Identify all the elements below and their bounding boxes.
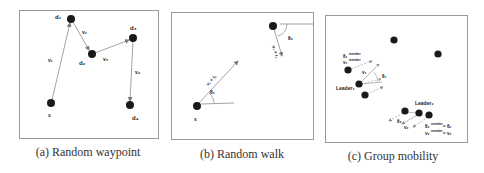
node-member-2a (401, 107, 408, 114)
label-theta1: θ₁ (382, 74, 386, 79)
group-mobility-diagram: θ₁ member v₁ member v₁ θ₁ Leader₁ Leader… (0, 0, 484, 145)
node-member-1b (361, 91, 368, 98)
leader1-reference-line (361, 82, 382, 84)
label-theta2-member-eq: = θ₂ (443, 124, 451, 129)
label-theta2-member: θ₂ (425, 124, 429, 129)
label-v1-member: v₁ (343, 60, 348, 65)
label-theta2: θ₂ (397, 119, 401, 124)
label-v2-member-eq: = v₂ (443, 131, 451, 136)
label-v1: v₁ (362, 70, 367, 75)
label-v2: v₂ (404, 125, 409, 130)
leader2-vector (402, 115, 417, 124)
node-member-2b (425, 111, 432, 118)
node-leader2 (415, 109, 422, 116)
panel-group-mobility: θ₁ member v₁ member v₁ θ₁ Leader₁ Leader… (0, 0, 484, 173)
member2-vector (367, 87, 383, 94)
node-leader1 (355, 80, 362, 87)
label-v2-member-sup: member (431, 129, 444, 133)
label-leader1: Leader₁ (336, 85, 354, 91)
label-theta1-member: θ₁ (343, 54, 347, 59)
label-leader2: Leader₂ (415, 100, 434, 106)
label-theta2-member-sup: member (431, 122, 444, 126)
node-free-2 (434, 50, 441, 57)
node-free-1 (390, 36, 397, 43)
member1-vector (351, 61, 372, 69)
label-v2-member: v₂ (425, 131, 430, 136)
label-theta1-member-sup: member (349, 52, 362, 56)
node-member-1a (344, 66, 351, 73)
caption-group-mobility: (c) Group mobility (348, 149, 439, 164)
label-v1-member-sup: member (349, 58, 362, 62)
